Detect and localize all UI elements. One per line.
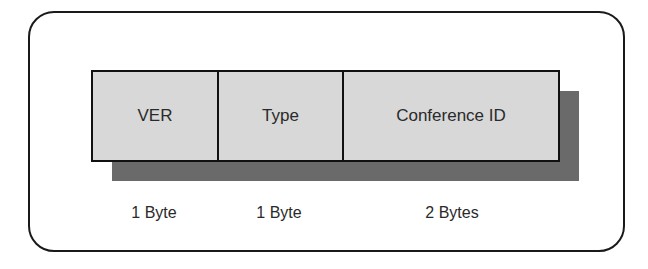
field-size-ver: 1 Byte [131, 204, 176, 222]
field-size-conference-id: 2 Bytes [425, 204, 478, 222]
field-label: Type [262, 106, 299, 126]
field-conference-id: Conference ID [342, 72, 558, 160]
field-ver: VER [93, 72, 217, 160]
packet-header: VER Type Conference ID [91, 70, 560, 162]
field-label: VER [138, 106, 173, 126]
field-size-type: 1 Byte [256, 204, 301, 222]
field-type: Type [217, 72, 342, 160]
field-label: Conference ID [396, 106, 506, 126]
